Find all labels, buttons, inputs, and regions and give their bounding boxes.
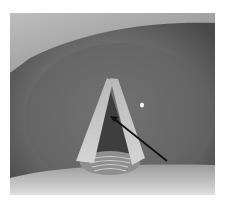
laryngoscopy-photo <box>10 13 215 195</box>
photo-canvas <box>10 13 215 195</box>
